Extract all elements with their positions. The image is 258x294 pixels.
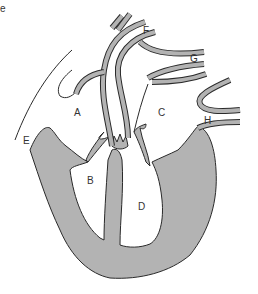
label-H: H <box>204 116 211 126</box>
right-av-valve <box>134 124 150 166</box>
heart-diagram <box>0 0 258 294</box>
label-F: F <box>143 26 149 36</box>
label-G: G <box>190 54 198 64</box>
label-D: D <box>138 202 145 212</box>
label-A: A <box>74 108 81 118</box>
outer-arc-line <box>15 50 72 140</box>
left-av-valve <box>86 132 110 162</box>
left-atrium-hook <box>58 70 76 98</box>
label-C: C <box>158 108 165 118</box>
label-E: E <box>23 136 30 146</box>
label-B: B <box>87 176 94 186</box>
left-pulmonary-vessel <box>76 72 104 94</box>
